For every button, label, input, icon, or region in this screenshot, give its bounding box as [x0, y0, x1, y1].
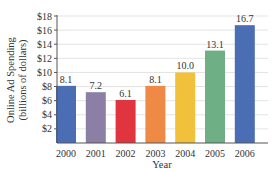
bar-2006 — [235, 25, 255, 143]
bar-chart: $2$4$6$8$10$12$14$16$18 2000200120022003… — [0, 0, 272, 172]
bar-2004 — [175, 72, 195, 143]
y-tick-label: $12 — [37, 53, 52, 64]
y-tick-labels: $2$4$6$8$10$12$14$16$18 — [37, 11, 57, 135]
value-label: 7.2 — [90, 80, 103, 91]
bar-2002 — [116, 100, 136, 143]
x-tick-labels: 2000200120022003200420052006 — [56, 148, 255, 159]
value-label: 13.1 — [206, 39, 224, 50]
x-axis-title: Year — [152, 159, 172, 170]
y-axis-title: Online Ad Spending — [5, 36, 16, 122]
bar-2003 — [145, 86, 165, 143]
value-label: 8.1 — [60, 74, 73, 85]
y-tick-label: $16 — [37, 25, 52, 36]
bar-2001 — [86, 92, 106, 143]
x-tick-label: 2001 — [86, 148, 106, 159]
value-label: 6.1 — [119, 88, 132, 99]
y-tick-label: $4 — [42, 109, 52, 120]
x-tick-label: 2004 — [175, 148, 195, 159]
y-tick-label: $18 — [37, 11, 52, 22]
x-tick-label: 2003 — [145, 148, 165, 159]
y-tick-label: $8 — [42, 81, 52, 92]
y-tick-label: $10 — [37, 67, 52, 78]
value-label: 8.1 — [149, 74, 162, 85]
y-axis-subtitle: (billions of dollars) — [17, 39, 29, 121]
bar-2005 — [205, 51, 225, 143]
bar-2000 — [56, 86, 76, 143]
x-tick-label: 2005 — [205, 148, 225, 159]
x-tick-label: 2002 — [116, 148, 136, 159]
y-tick-label: $6 — [42, 95, 52, 106]
value-label: 16.7 — [236, 13, 254, 24]
y-tick-label: $14 — [37, 39, 52, 50]
x-tick-label: 2006 — [235, 148, 255, 159]
x-tick-label: 2000 — [56, 148, 76, 159]
y-tick-label: $2 — [42, 123, 52, 134]
value-label: 10.0 — [176, 60, 194, 71]
